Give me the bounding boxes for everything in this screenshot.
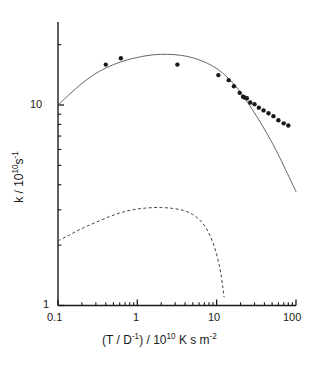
data-point [104, 62, 108, 66]
y-tick-label-10: 10 [30, 98, 42, 110]
data-point [245, 96, 249, 100]
y-tick-label-1: 1 [43, 298, 49, 310]
y-axis-title-mid-sup: -1 [11, 151, 20, 158]
data-point [227, 78, 231, 82]
data-point [175, 62, 179, 66]
series-upper-solid-curve [58, 54, 296, 191]
data-point [282, 121, 286, 125]
upper-solid-path [58, 54, 296, 191]
x-tick-label-1: 1 [133, 311, 139, 323]
data-point [248, 100, 252, 104]
data-point [252, 102, 256, 106]
series-data-points [104, 56, 291, 128]
data-point [261, 108, 265, 112]
y-axis-ticks [58, 45, 64, 306]
x-axis-title-lead: (T / D [102, 333, 132, 347]
x-axis-title-tail-sup: -2 [210, 332, 217, 341]
x-axis-title: (T / D-1) / 1010 K s m-2 [0, 333, 319, 347]
data-point [257, 105, 261, 109]
x-tick-label-0-1: 0.1 [47, 311, 62, 323]
y-axis-title-lead-sup: 10 [11, 164, 20, 173]
x-axis-ticks [58, 300, 296, 306]
x-axis-title-mid-sup: 10 [167, 332, 176, 341]
data-point [286, 123, 290, 127]
lower-dashed-path [58, 208, 224, 298]
data-point [119, 56, 123, 60]
data-point [237, 91, 241, 95]
x-axis-title-tail: K s m [176, 333, 210, 347]
data-point [271, 114, 275, 118]
series-lower-dashed-curve [58, 208, 224, 298]
x-tick-label-10: 10 [208, 311, 220, 323]
data-point [276, 118, 280, 122]
data-point [266, 111, 270, 115]
chart-figure: 10 1 0.1 1 10 100 (T / D-1) / 1010 K s m… [0, 0, 319, 368]
y-axis-title: k / 1010s-1 [12, 97, 26, 257]
y-axis-title-lead: k / 10 [12, 174, 26, 203]
x-tick-label-100: 100 [283, 311, 301, 323]
x-axis-title-mid: ) / 10 [139, 333, 166, 347]
data-point [216, 73, 220, 77]
y-axis-title-mid: s [12, 158, 26, 164]
data-point [232, 84, 236, 88]
